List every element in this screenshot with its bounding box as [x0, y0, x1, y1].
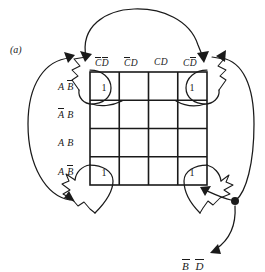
row-header-r2: A B [58, 137, 74, 148]
row-header-r1: A B [58, 108, 74, 120]
column-header-c3-d: D [190, 57, 197, 68]
caption-term-b: B [182, 259, 191, 272]
row-header-r0-b: B [67, 80, 74, 92]
column-header-c3: CD [183, 57, 197, 68]
column-header-c2-c: C [154, 57, 161, 67]
row-header-r2-a: A [58, 137, 65, 148]
row-header-r0-a: A [58, 81, 65, 92]
kmap-cell-r0c0: 1 [97, 82, 111, 93]
caption-term-d: D [195, 259, 205, 272]
column-header-c1: CD [124, 57, 138, 68]
caption-term: B D [182, 259, 205, 272]
row-header-r2-b: B [67, 137, 74, 148]
row-header-r3: A B [58, 165, 74, 177]
column-header-c0-c: C [95, 57, 102, 68]
column-header-c1-d: D [131, 58, 138, 68]
kmap-cell-r0c3: 1 [185, 82, 199, 93]
column-header-c0: CD [95, 57, 109, 68]
figure-label: (a) [10, 44, 22, 55]
row-header-r0: A B [58, 80, 74, 92]
column-header-c2-d: D [161, 57, 168, 67]
column-header-c0-d: D [102, 57, 109, 68]
kmap-cell-r3c0: 1 [97, 167, 111, 178]
row-header-r1-b: B [67, 109, 74, 120]
row-header-r1-a: A [58, 108, 65, 120]
column-header-c1-c: C [124, 57, 131, 68]
kmap-cell-r3c3: 1 [185, 167, 199, 178]
row-header-r3-a: A [58, 166, 65, 177]
column-header-c2: CD [154, 57, 168, 67]
row-header-r3-b: B [67, 165, 74, 177]
column-header-c3-c: C [183, 58, 190, 68]
